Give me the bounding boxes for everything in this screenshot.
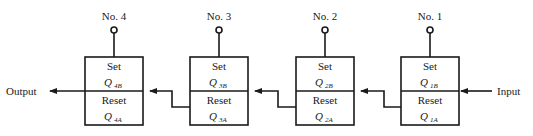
- shift-register-diagram: Input Output No. 4 Set Q 4B Reset Q 4A N…: [0, 0, 533, 136]
- reset-q: Q: [420, 110, 428, 122]
- stage-3: No. 3 Set Q 3B Reset Q 3A: [190, 10, 248, 125]
- set-label: Set: [107, 60, 121, 72]
- set-q: Q: [420, 76, 428, 88]
- terminal-icon: [427, 27, 433, 33]
- terminal-icon: [111, 27, 117, 33]
- connector-3-to-4: [150, 91, 190, 107]
- set-subscript: 2B: [325, 82, 334, 90]
- reset-subscript: 3A: [218, 116, 228, 124]
- reset-label: Reset: [207, 94, 231, 106]
- set-q: Q: [209, 76, 217, 88]
- set-q: Q: [104, 76, 112, 88]
- connector-1-to-2: [361, 91, 401, 107]
- output-label: Output: [6, 85, 37, 97]
- stage-label: No. 2: [313, 10, 337, 22]
- set-subscript: 3B: [218, 82, 228, 90]
- stage-2: No. 2 Set Q 2B Reset Q 2A: [296, 10, 354, 125]
- stage-label: No. 4: [102, 10, 127, 22]
- reset-subscript: 4A: [114, 116, 123, 124]
- reset-q: Q: [104, 110, 112, 122]
- reset-q: Q: [209, 110, 217, 122]
- terminal-icon: [216, 27, 222, 33]
- set-label: Set: [318, 60, 332, 72]
- stage-1: No. 1 Set Q 1B Reset Q 1A: [401, 10, 459, 125]
- stage-label: No. 1: [418, 10, 442, 22]
- stage-label: No. 3: [207, 10, 232, 22]
- reset-subscript: 2A: [325, 116, 334, 124]
- connector-2-to-3: [255, 91, 296, 107]
- reset-subscript: 1A: [430, 116, 439, 124]
- reset-q: Q: [315, 110, 323, 122]
- input-label: Input: [497, 85, 520, 97]
- stage-4: No. 4 Set Q 4B Reset Q 4A: [85, 10, 143, 125]
- set-q: Q: [315, 76, 323, 88]
- set-subscript: 1B: [430, 82, 439, 90]
- set-label: Set: [212, 60, 226, 72]
- terminal-icon: [322, 27, 328, 33]
- reset-label: Reset: [102, 94, 126, 106]
- reset-label: Reset: [313, 94, 337, 106]
- set-label: Set: [423, 60, 437, 72]
- reset-label: Reset: [418, 94, 442, 106]
- set-subscript: 4B: [114, 82, 123, 90]
